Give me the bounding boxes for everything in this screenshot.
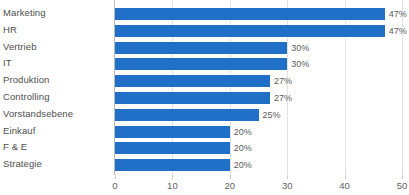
bar — [115, 142, 230, 154]
bar — [115, 92, 270, 104]
plot-area: 0102030405047%47%30%30%27%27%25%20%20%20… — [115, 0, 409, 195]
category-label: Vertrieb — [3, 41, 37, 53]
category-label: Einkauf — [3, 125, 35, 137]
bar-value-label: 27% — [274, 75, 292, 87]
bar — [115, 42, 287, 54]
bar — [115, 58, 287, 70]
category-label: Controlling — [3, 91, 50, 103]
axis-tick-label: 0 — [112, 180, 117, 191]
bar — [115, 75, 270, 87]
axis-tick-label: 30 — [282, 180, 293, 191]
category-label: F & E — [3, 141, 27, 153]
bar — [115, 8, 385, 20]
axis-tick — [345, 175, 346, 179]
axis-tick-label: 40 — [339, 180, 350, 191]
bar-value-label: 47% — [389, 8, 407, 20]
bar-chart: MarketingHRVertriebITProduktionControlli… — [0, 0, 409, 195]
category-axis: MarketingHRVertriebITProduktionControlli… — [0, 0, 112, 195]
axis-tick-label: 10 — [167, 180, 178, 191]
bar-value-label: 30% — [291, 58, 309, 70]
category-label: Vorstandsebene — [3, 108, 73, 120]
axis-tick-label: 20 — [225, 180, 236, 191]
category-label: Strategie — [3, 158, 42, 170]
bar-value-label: 30% — [291, 42, 309, 54]
axis-tick-label: 50 — [397, 180, 408, 191]
bar-value-label: 27% — [274, 92, 292, 104]
bar — [115, 126, 230, 138]
bar — [115, 159, 230, 171]
bar-value-label: 20% — [234, 126, 252, 138]
bar-value-label: 47% — [389, 25, 407, 37]
axis-tick — [287, 175, 288, 179]
category-label: HR — [3, 24, 17, 36]
category-label: Marketing — [3, 7, 46, 19]
axis-tick — [230, 175, 231, 179]
category-label: Produktion — [3, 74, 49, 86]
bar — [115, 25, 385, 37]
bar-value-label: 20% — [234, 142, 252, 154]
axis-tick — [402, 175, 403, 179]
axis-tick — [172, 175, 173, 179]
axis-tick — [115, 175, 116, 179]
bar — [115, 109, 259, 121]
bar-value-label: 20% — [234, 159, 252, 171]
bar-value-label: 25% — [263, 109, 281, 121]
category-label: IT — [3, 57, 12, 69]
